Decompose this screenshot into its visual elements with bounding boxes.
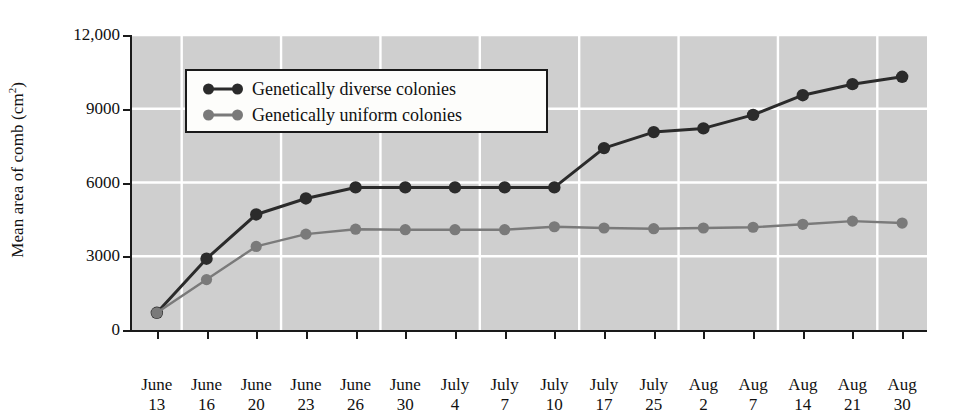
y-tick-mark [123, 109, 132, 111]
data-point [648, 126, 660, 138]
data-point [747, 109, 759, 121]
y-axis-title-tail: ) [8, 82, 27, 88]
data-point [251, 241, 262, 252]
x-tick-mark [654, 330, 656, 339]
x-tick-mark [207, 330, 209, 339]
x-tick-mark [455, 330, 457, 339]
data-point [846, 78, 858, 90]
series-line-uniform [157, 221, 902, 313]
legend-label-diverse: Genetically diverse colonies [252, 79, 456, 100]
x-tick-mark [753, 330, 755, 339]
legend-item-uniform: Genetically uniform colonies [203, 102, 546, 128]
y-tick-label: 9000 [42, 99, 120, 119]
data-point [399, 181, 411, 193]
data-point [896, 71, 908, 83]
x-tick-mark [554, 330, 556, 339]
data-point [498, 181, 510, 193]
data-point [548, 181, 560, 193]
legend-item-diverse: Genetically diverse colonies [203, 76, 546, 102]
x-tick-mark [852, 330, 854, 339]
y-axis-title-text: Mean area of comb (cm2) [6, 82, 28, 258]
legend-marker-uniform-icon [203, 109, 243, 121]
x-tick-mark [157, 330, 159, 339]
legend-dot-left-uniform [203, 110, 214, 121]
chart-legend: Genetically diverse colonies Genetically… [185, 69, 548, 133]
legend-dot-right-diverse [232, 84, 243, 95]
x-tick-month: Aug [872, 375, 932, 395]
data-point [797, 219, 808, 230]
data-point [350, 224, 361, 235]
x-tick-day: 30 [872, 395, 932, 414]
data-point [747, 222, 758, 233]
y-tick-mark [123, 256, 132, 258]
data-point [598, 222, 609, 233]
data-point [200, 253, 212, 265]
data-point [449, 181, 461, 193]
x-tick-mark [703, 330, 705, 339]
data-point [797, 89, 809, 101]
data-point [449, 224, 460, 235]
y-tick-label: 12,000 [42, 25, 120, 45]
y-tick-label: 0 [42, 320, 120, 340]
y-axis-title-main: Mean area of comb (cm [8, 93, 27, 257]
x-tick-label: Aug30 [872, 375, 932, 414]
data-point [201, 274, 212, 285]
legend-label-uniform: Genetically uniform colonies [252, 105, 462, 126]
y-axis-title: Mean area of comb (cm2) [0, 0, 34, 340]
x-tick-mark [405, 330, 407, 339]
y-axis-tick-labels: 030006000900012,000 [42, 0, 120, 404]
y-tick-mark [123, 35, 132, 37]
x-tick-mark [256, 330, 258, 339]
data-point [300, 229, 311, 240]
data-point [349, 181, 361, 193]
x-tick-mark [902, 330, 904, 339]
y-tick-label: 3000 [42, 246, 120, 266]
x-tick-mark [604, 330, 606, 339]
y-tick-label: 6000 [42, 173, 120, 193]
y-axis-title-superscript: 2 [6, 88, 18, 94]
x-tick-mark [306, 330, 308, 339]
data-point [648, 223, 659, 234]
data-point [499, 224, 510, 235]
data-point [400, 224, 411, 235]
data-point [300, 192, 312, 204]
x-tick-mark [803, 330, 805, 339]
data-point [897, 217, 908, 228]
y-tick-mark [123, 330, 132, 332]
x-tick-mark [356, 330, 358, 339]
data-point [598, 142, 610, 154]
data-point [847, 215, 858, 226]
x-tick-mark [505, 330, 507, 339]
data-point [549, 221, 560, 232]
legend-dot-right-uniform [232, 110, 243, 121]
data-point [698, 222, 709, 233]
data-point [250, 208, 262, 220]
y-tick-mark [123, 183, 132, 185]
data-point [697, 122, 709, 134]
data-point [151, 307, 162, 318]
legend-dot-left-diverse [203, 84, 214, 95]
legend-marker-diverse-icon [203, 83, 243, 95]
